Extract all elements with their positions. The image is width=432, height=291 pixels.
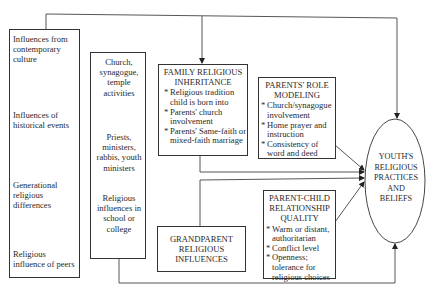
- family-inheritance-title-1: FAMILY RELIGIOUS: [159, 67, 247, 77]
- grandparent-box: GRANDPARENT RELIGIOUS INFLUENCES: [157, 226, 246, 272]
- grandparent-line-3: INFLUENCES: [158, 254, 245, 264]
- grandparent-line-1: GRANDPARENT: [158, 234, 245, 244]
- generational-differences-label: Generational religious differences: [13, 180, 79, 211]
- parent-child-list: Warm or distant, authoritarian Conflict …: [264, 225, 335, 283]
- parent-child-bullet: Warm or distant, authoritarian: [266, 225, 335, 244]
- role-modeling-title-2: MODELING: [259, 90, 335, 100]
- role-modeling-title-1: PARENTS' ROLE: [259, 80, 335, 90]
- church-activities-label: Church, synagogue, temple activities: [92, 57, 146, 98]
- peer-influence-label: Religious influence of peers: [13, 249, 79, 269]
- parent-child-box: PARENT-CHILD RELATIONSHIP QUALITY Warm o…: [263, 190, 336, 279]
- family-bullet: Parents' Same-faith or mixed-faith marri…: [164, 127, 247, 146]
- role-modeling-list: Church/synagogue involvement Home prayer…: [259, 101, 335, 159]
- contemporary-culture-label: Influences from contemporary culture: [13, 34, 79, 65]
- outcome-line-1: YOUTH'S: [366, 152, 426, 163]
- parent-child-title-3: QUALITY: [264, 213, 335, 223]
- clergy-label: Priests, ministers, rabbis, youth minist…: [92, 132, 146, 173]
- grandparent-line-2: RELIGIOUS: [158, 244, 245, 254]
- role-modeling-to-outcome-arrow: [335, 145, 364, 170]
- historical-events-label: Influences of historical events: [13, 110, 79, 130]
- family-inheritance-title-2: INHERITANCE: [159, 77, 247, 87]
- broad-influences-box: Influences from contemporary culture Inf…: [9, 29, 80, 278]
- school-influences-label: Religious influences in school or colleg…: [92, 193, 146, 234]
- institutional-influences-box: Church, synagogue, temple activities Pri…: [90, 52, 146, 259]
- outcome-line-2: RELIGIOUS: [366, 163, 426, 174]
- role-modeling-box: PARENTS' ROLE MODELING Church/synagogue …: [258, 77, 336, 159]
- family-bullet: Parents' church involvement: [164, 108, 247, 127]
- parent-child-title-1: PARENT-CHILD: [264, 193, 335, 203]
- parent-child-bullet: Openness; tolerance for religious choice…: [266, 253, 335, 282]
- outcome-line-4: AND: [366, 184, 426, 195]
- outcome-line-3: PRACTICES: [366, 173, 426, 184]
- role-bullet: Consistency of word and deed: [261, 140, 335, 159]
- outcome-label: YOUTH'S RELIGIOUS PRACTICES AND BELIEFS: [366, 152, 426, 205]
- parent-child-to-outcome-arrow: [335, 182, 364, 222]
- family-inheritance-box: FAMILY RELIGIOUS INHERITANCE Religious t…: [158, 64, 248, 156]
- role-bullet: Church/synagogue involvement: [261, 101, 335, 120]
- family-inheritance-list: Religious tradition child is born into P…: [159, 88, 247, 146]
- outcome-line-5: BELIEFS: [366, 194, 426, 205]
- parent-child-title-2: RELATIONSHIP: [264, 203, 335, 213]
- family-bullet: Religious tradition child is born into: [164, 88, 247, 107]
- role-bullet: Home prayer and instruction: [261, 121, 335, 140]
